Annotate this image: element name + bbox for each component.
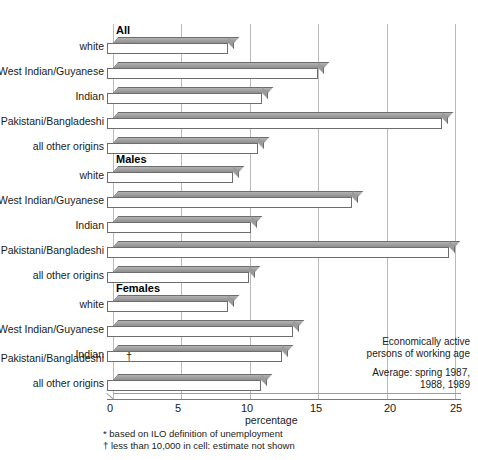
category-label-all-white: white <box>0 40 104 54</box>
bar-front-face <box>107 43 228 54</box>
category-label-text: white <box>79 298 104 310</box>
category-label-text: white <box>79 40 104 52</box>
bar-males-white <box>107 166 233 177</box>
category-label-text: Indian <box>75 90 104 102</box>
gridline-15 <box>318 24 319 399</box>
bar-males-other <box>107 266 249 277</box>
axis-baseline <box>107 399 461 400</box>
bar-females-west-indian <box>107 320 293 331</box>
no-data-dagger-marker: † <box>126 350 132 362</box>
gridline-10 <box>250 24 251 399</box>
bar-males-indian <box>107 216 251 227</box>
category-label-males-pakistani: Pakistani/Bangladeshi <box>0 244 104 258</box>
category-label-females-other: all other origins <box>0 377 104 391</box>
category-label-all-indian: Indian <box>0 90 104 104</box>
bar-front-face <box>107 351 282 362</box>
xtick-label-15: 15 <box>310 402 322 414</box>
gridline-0 <box>113 24 114 399</box>
bar-males-pakistani <box>107 241 449 252</box>
category-label-males-west-indian: West Indian/Guyanese <box>0 194 104 208</box>
category-label-females-pakistani: Pakistani/Bangladeshi <box>0 352 104 366</box>
chart-annotation: Economically active persons of working a… <box>330 336 470 391</box>
bar-front-face <box>107 172 233 183</box>
bar-front-face <box>107 197 352 208</box>
gridline-5 <box>181 24 182 399</box>
xtick-label-25: 25 <box>450 402 462 414</box>
group-heading-males: Males <box>116 153 147 165</box>
bar-all-west-indian <box>107 62 318 73</box>
category-label-text: all other origins <box>33 269 104 281</box>
category-label-all-other: all other origins <box>0 140 104 154</box>
bar-all-other <box>107 137 258 148</box>
footnote-ilo: * based on ILO definition of unemploymen… <box>103 428 295 440</box>
bar-all-pakistani <box>107 112 442 123</box>
category-label-all-pakistani: Pakistani/Bangladeshi <box>0 115 104 129</box>
bar-front-face <box>107 118 442 129</box>
category-label-females-white: white <box>0 298 104 312</box>
annotation-line-2: persons of working age <box>330 348 470 360</box>
annotation-line-1: Economically active <box>330 336 470 348</box>
footnote-cell: † less than 10,000 in cell: estimate not… <box>103 440 295 452</box>
axis-floor-left-edge <box>107 393 114 400</box>
group-heading-females: Females <box>116 282 160 294</box>
axis-floor-back <box>113 393 461 394</box>
bar-males-west-indian <box>107 191 352 202</box>
bar-front-face <box>107 380 261 391</box>
xtick-label-10: 10 <box>241 402 253 414</box>
category-label-text: West Indian/Guyanese <box>0 194 104 206</box>
bar-all-indian <box>107 87 262 98</box>
category-label-all-west-indian: West Indian/Guyanese <box>0 65 104 79</box>
bar-front-face <box>107 222 251 233</box>
annotation-line-4: 1988, 1989 <box>330 379 470 391</box>
xtick-label-5: 5 <box>175 402 181 414</box>
group-heading-all: All <box>116 24 130 36</box>
xtick-label-0: 0 <box>107 402 113 414</box>
category-label-text: West Indian/Guyanese <box>0 323 104 335</box>
bar-females-other <box>107 374 261 385</box>
bar-front-face <box>107 247 449 258</box>
category-label-text: Indian <box>75 219 104 231</box>
category-label-text: Pakistani/Bangladeshi <box>1 244 104 256</box>
chart-footnotes: * based on ILO definition of unemploymen… <box>103 428 295 452</box>
category-label-text: Pakistani/Bangladeshi <box>1 352 104 364</box>
bar-front-face <box>107 326 293 337</box>
category-label-text: Pakistani/Bangladeshi <box>1 115 104 127</box>
x-axis-title: percentage <box>245 414 298 426</box>
category-label-females-west-indian: West Indian/Guyanese <box>0 323 104 337</box>
category-label-text: white <box>79 169 104 181</box>
category-label-text: West Indian/Guyanese <box>0 65 104 77</box>
bar-females-white <box>107 295 228 306</box>
bar-all-white <box>107 37 228 48</box>
category-label-males-indian: Indian <box>0 219 104 233</box>
bar-females-indian <box>107 345 282 356</box>
bar-front-face <box>107 93 262 104</box>
category-label-text: all other origins <box>33 140 104 152</box>
xtick-label-20: 20 <box>384 402 396 414</box>
chart-container: All white West Indian/Guyanese Indian Pa… <box>0 0 478 460</box>
category-label-males-other: all other origins <box>0 269 104 283</box>
category-label-males-white: white <box>0 169 104 183</box>
bar-front-face <box>107 68 318 79</box>
bar-front-face <box>107 301 228 312</box>
annotation-line-3: Average: spring 1987, <box>330 367 470 379</box>
category-label-text: all other origins <box>33 377 104 389</box>
